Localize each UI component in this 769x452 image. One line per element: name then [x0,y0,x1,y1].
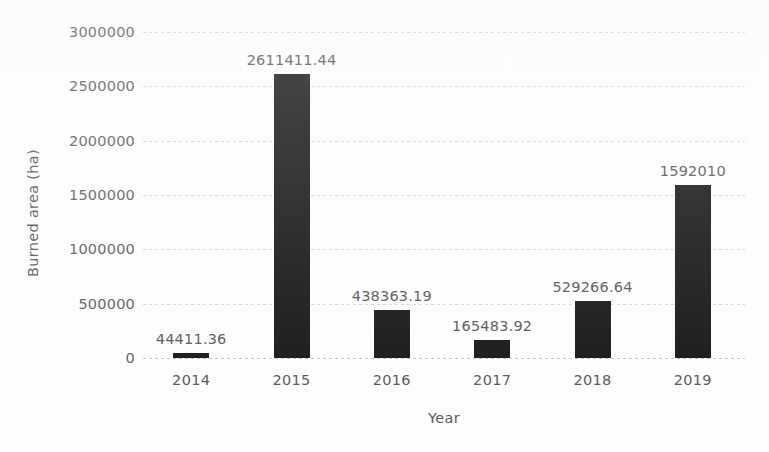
y-axis-tick-label: 500000 [35,296,135,312]
y-axis-tick-label: 2000000 [35,133,135,149]
x-axis-tick-label: 2014 [172,372,210,388]
bar-chart: Burned area (ha) 05000001000000150000020… [0,0,769,452]
x-axis-tick-label: 2018 [573,372,611,388]
bar [374,310,410,358]
gridline [143,358,745,359]
x-axis-tick-label: 2016 [373,372,411,388]
bar [474,340,510,358]
gridline [143,304,745,305]
x-axis-tick-label: 2019 [674,372,712,388]
bar-value-label: 1592010 [660,163,726,179]
bar-value-label: 165483.92 [452,318,532,334]
y-axis-tick-label: 1000000 [35,241,135,257]
gridline [143,249,745,250]
y-axis-tick-label: 1500000 [35,187,135,203]
bar-value-label: 2611411.44 [247,52,337,68]
y-axis-tick-label: 0 [35,350,135,366]
gridline [143,32,745,33]
bar-value-label: 529266.64 [552,279,632,295]
bar-value-label: 438363.19 [352,288,432,304]
x-axis-title: Year [143,410,745,426]
bar [274,74,310,358]
bar [575,301,611,359]
y-axis-tick-labels: 0500000100000015000002000000250000030000… [30,0,135,452]
bar-value-label: 44411.36 [156,331,227,347]
gridline [143,86,745,87]
gridline [143,195,745,196]
bar [173,353,209,358]
y-axis-tick-label: 2500000 [35,78,135,94]
x-axis-tick-label: 2015 [272,372,310,388]
y-axis-tick-label: 3000000 [35,24,135,40]
x-axis-tick-label: 2017 [473,372,511,388]
bar [675,185,711,358]
gridline [143,141,745,142]
plot-area: 44411.362611411.44438363.19165483.925292… [143,32,745,358]
